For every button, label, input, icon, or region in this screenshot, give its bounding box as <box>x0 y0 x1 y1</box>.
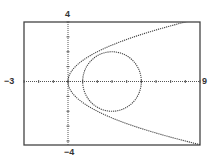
plot-frame <box>24 22 200 145</box>
parabola-curve <box>68 15 211 149</box>
y-min-label: −4 <box>64 148 74 157</box>
y-max-label: 4 <box>65 10 70 19</box>
x-min-label: −3 <box>4 77 14 86</box>
x-max-label: 9 <box>202 77 207 86</box>
graph-plot <box>0 0 211 164</box>
